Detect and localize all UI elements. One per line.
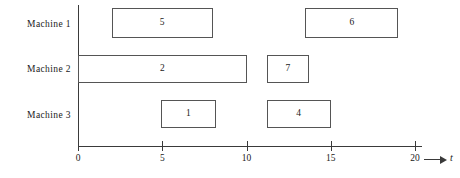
- axis-tick-label: 20: [410, 153, 420, 163]
- task-bar-label: 6: [349, 18, 354, 28]
- axis-tick: [331, 141, 332, 151]
- axis-tick-label: 15: [326, 153, 336, 163]
- task-bar-label: 5: [160, 18, 165, 28]
- axis-tick-label: 0: [76, 153, 81, 163]
- axis-variable-label: t: [450, 152, 453, 163]
- gantt-chart: Machine 1 Machine 2 Machine 3 t 05101520…: [0, 0, 460, 178]
- task-bar[interactable]: 7: [267, 55, 309, 83]
- task-bar[interactable]: 6: [305, 8, 398, 38]
- time-axis: [78, 146, 422, 147]
- axis-tick: [162, 141, 163, 151]
- axis-tick: [415, 141, 416, 151]
- task-bar-label: 4: [296, 109, 301, 119]
- row-label-machine-3: Machine 3: [27, 110, 71, 120]
- row-label-machine-1: Machine 1: [27, 19, 71, 29]
- task-bar-label: 1: [186, 109, 191, 119]
- task-bar[interactable]: 5: [112, 8, 213, 38]
- axis-tick-label: 5: [160, 153, 165, 163]
- task-bar-label: 7: [285, 64, 290, 74]
- axis-tick: [78, 141, 79, 151]
- axis-tick-label: 10: [242, 153, 252, 163]
- task-bar-label: 2: [160, 64, 165, 74]
- axis-tick: [247, 141, 248, 151]
- task-bar[interactable]: 4: [267, 100, 331, 128]
- axis-arrow-head-icon: [440, 156, 447, 164]
- task-bar[interactable]: 1: [161, 100, 217, 128]
- task-bar[interactable]: 2: [78, 55, 247, 83]
- row-label-machine-2: Machine 2: [27, 64, 71, 74]
